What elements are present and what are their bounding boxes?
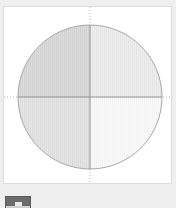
- thumbnail-label: [6, 197, 7, 198]
- app-root: [0, 0, 176, 208]
- thumbnail-widget[interactable]: [5, 196, 31, 208]
- quadrant-circle-chart: [4, 7, 171, 183]
- slice-top-left[interactable]: [18, 25, 90, 97]
- slice-top-right[interactable]: [90, 25, 162, 97]
- slice-bottom-left[interactable]: [18, 97, 90, 169]
- thumbnail-footer-bar: [6, 206, 30, 208]
- slice-bottom-right[interactable]: [90, 97, 162, 169]
- plot-panel: [3, 6, 172, 184]
